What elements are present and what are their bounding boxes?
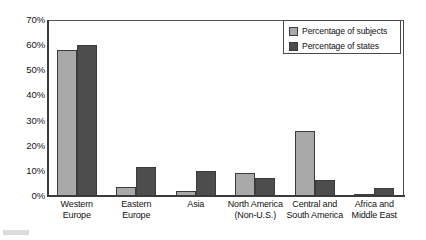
bar [136,167,156,196]
x-axis-category-label-line: Africa and [345,199,405,210]
x-axis-category-label-line: Asia [166,199,226,210]
legend-item-subjects: Percentage of subjects [289,24,396,39]
x-axis-category-label: WesternEurope [47,199,107,221]
bar [374,188,394,196]
x-axis-category-label: Central andSouth America [285,199,345,221]
x-axis-category-label-line: Europe [107,210,167,221]
bar [235,173,255,196]
scan-artifact [3,230,29,235]
legend-label-subjects: Percentage of subjects [302,27,387,36]
bar [354,194,374,196]
bar-chart: 70%60%50%40%30%20%10%0% WesternEuropeEas… [0,0,426,240]
x-axis-category-label-line: Middle East [345,210,405,221]
bar [176,191,196,196]
y-axis-tick-label: 0% [3,191,45,201]
legend: Percentage of subjects Percentage of sta… [283,20,401,54]
legend-label-states: Percentage of states [302,42,379,51]
y-axis-tick-label: 70% [3,15,45,25]
x-axis-category-label-line: Europe [47,210,107,221]
bar-group [176,20,216,196]
bar [57,50,77,196]
x-axis-category-label: EasternEurope [107,199,167,221]
legend-item-states: Percentage of states [289,39,396,54]
legend-swatch-states-icon [289,42,298,51]
bar-group [235,20,275,196]
bar-group [57,20,97,196]
bar [315,180,335,196]
bar [255,178,275,196]
bar [295,131,315,196]
y-axis-tick-label: 30% [3,116,45,126]
x-axis-category-label: Africa andMiddle East [345,199,405,221]
x-axis-category-label-line: Central and [285,199,345,210]
y-axis-ticks: 70%60%50%40%30%20%10%0% [0,0,45,240]
y-axis-tick-label: 50% [3,65,45,75]
x-axis-category-label-line: South America [285,210,345,221]
bar-group [116,20,156,196]
x-axis-category-label: Asia [166,199,226,210]
legend-swatch-subjects-icon [289,27,298,36]
x-axis-category-label-line: North America [226,199,286,210]
y-axis-tick-label: 20% [3,141,45,151]
x-axis-category-label: North America(Non-U.S.) [226,199,286,221]
bar [196,171,216,196]
bar [77,45,97,196]
bar [116,187,136,196]
y-axis-tick-label: 60% [3,40,45,50]
x-axis-category-label-line: (Non-U.S.) [226,210,286,221]
x-axis-category-label-line: Western [47,199,107,210]
x-axis-category-label-line: Eastern [107,199,167,210]
y-axis-tick-label: 40% [3,90,45,100]
y-axis-tick-label: 10% [3,166,45,176]
